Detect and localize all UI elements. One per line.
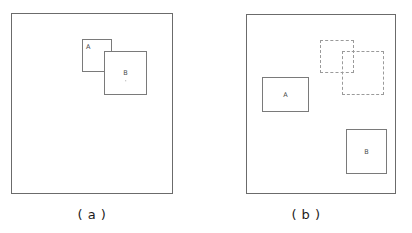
- panel-b-box-a: A: [262, 77, 309, 112]
- figure-root: A B ( a ) A B ( b ): [0, 0, 412, 233]
- caption-panel-b: ( b ): [283, 207, 329, 222]
- panel-a-box-a-label: A: [86, 44, 91, 51]
- panel-a-box-b: B: [104, 51, 147, 95]
- panel-b-box-b: B: [346, 129, 387, 174]
- caption-panel-a: ( a ): [69, 207, 115, 222]
- panel-b-box-a-label: A: [283, 91, 288, 98]
- panel-b-frame: A B: [246, 14, 396, 194]
- panel-a-frame: A B: [11, 13, 173, 194]
- panel-a-box-b-dot-mark: [125, 80, 127, 82]
- panel-a-box-b-label: B: [123, 70, 128, 77]
- panel-b-ghost-box-b: [342, 51, 384, 95]
- panel-b-box-b-label: B: [364, 148, 369, 155]
